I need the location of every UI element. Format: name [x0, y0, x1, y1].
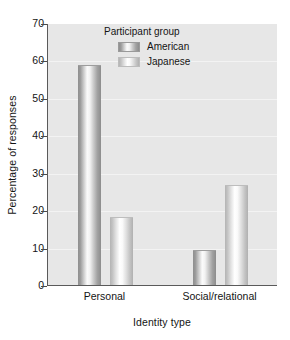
y-tick-mark: [41, 286, 47, 287]
legend-swatch-american: [118, 42, 140, 52]
legend-label-japanese: Japanese: [147, 56, 190, 67]
bar-japanese-1: [225, 185, 248, 285]
bar-american-0: [78, 65, 101, 285]
bar-american-1: [193, 250, 216, 285]
y-tick-label: 60: [4, 55, 44, 65]
y-tick-label: 30: [4, 168, 44, 178]
x-tick-label: Social/relational: [150, 290, 290, 302]
legend-item-japanese: Japanese: [104, 55, 224, 68]
y-tick-label: 10: [4, 243, 44, 253]
bar-chart-figure: Percentage of responses 010203040506070 …: [0, 0, 289, 340]
legend-title: Participant group: [104, 26, 224, 37]
y-tick-label: 40: [4, 130, 44, 140]
legend-item-american: American: [104, 40, 224, 53]
bar-japanese-0: [110, 217, 133, 285]
y-tick-label: 0: [4, 280, 44, 290]
legend-swatch-japanese: [118, 57, 140, 67]
legend-label-american: American: [147, 41, 189, 52]
y-tick-label: 70: [4, 18, 44, 28]
legend: Participant group American Japanese: [104, 26, 224, 70]
y-tick-label: 50: [4, 93, 44, 103]
x-axis-title: Identity type: [47, 316, 277, 330]
y-tick-label: 20: [4, 205, 44, 215]
